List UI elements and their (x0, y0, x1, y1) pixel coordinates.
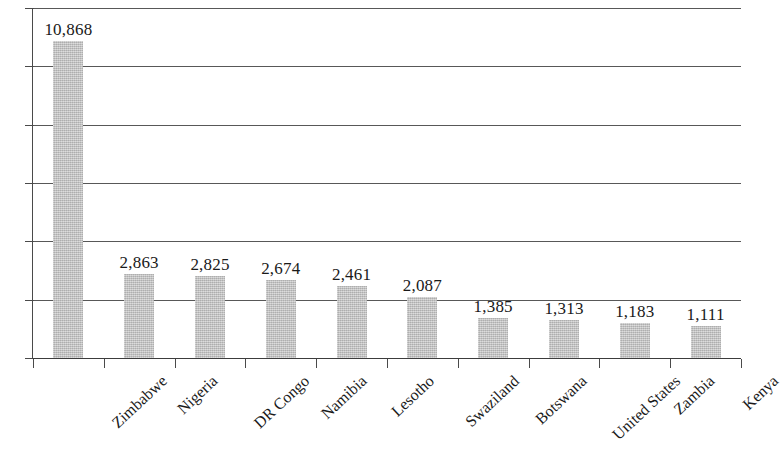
bar-value-label: 1,183 (595, 302, 675, 322)
gridline (33, 183, 741, 184)
x-axis-tick (245, 359, 246, 368)
gridline (33, 66, 741, 67)
bar (407, 297, 437, 358)
x-axis-category-label: DR Congo (251, 372, 314, 432)
x-axis-tick (175, 359, 176, 368)
bar-value-label: 2,087 (382, 276, 462, 296)
x-axis-tick (670, 359, 671, 368)
bar-value-label: 10,868 (28, 20, 108, 40)
bar-value-label: 2,825 (170, 255, 250, 275)
x-axis-category-label: Zimbabwe (109, 372, 171, 432)
bar-value-label: 1,385 (453, 297, 533, 317)
x-axis-category-label: Kenya (739, 372, 782, 414)
gridline (33, 8, 741, 9)
x-axis-tick (316, 359, 317, 368)
bar (549, 320, 579, 358)
gridline (33, 125, 741, 126)
y-axis-tick (25, 300, 34, 301)
y-axis-tick (25, 241, 34, 242)
x-axis-tick (33, 359, 34, 368)
bar-value-label: 1,313 (524, 299, 604, 319)
bar (266, 280, 296, 358)
bar-value-label: 2,461 (312, 265, 392, 285)
bar (195, 276, 225, 358)
bar (53, 41, 83, 358)
x-axis-tick (599, 359, 600, 368)
x-axis-category-label: Swaziland (462, 372, 523, 431)
x-axis-category-label: Nigeria (174, 372, 221, 418)
y-axis-tick (25, 66, 34, 67)
bar (124, 274, 154, 358)
x-axis-tick (741, 359, 742, 368)
x-axis-category-label: Namibia (318, 372, 371, 423)
x-axis-tick (104, 359, 105, 368)
x-axis-tick (458, 359, 459, 368)
bar-value-label: 1,111 (666, 305, 746, 325)
gridline (33, 241, 741, 242)
bar (337, 286, 367, 358)
x-axis-tick (387, 359, 388, 368)
x-axis-category-label: Botswana (532, 372, 590, 428)
x-axis-category-label: Lesotho (387, 372, 437, 420)
bar-value-label: 2,863 (99, 253, 179, 273)
bar (620, 323, 650, 358)
bar (691, 326, 721, 358)
bar (478, 318, 508, 358)
y-axis-tick (25, 183, 34, 184)
y-axis-tick (25, 125, 34, 126)
x-axis-tick (529, 359, 530, 368)
bar-value-label: 2,674 (241, 259, 321, 279)
y-axis-tick (25, 8, 34, 9)
